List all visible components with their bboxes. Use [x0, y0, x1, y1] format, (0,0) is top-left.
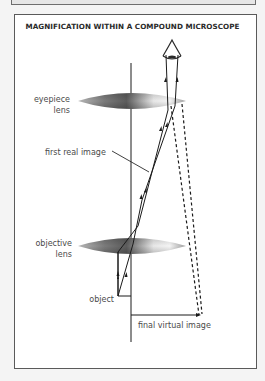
label-final-virtual-image: final virtual image	[138, 321, 211, 330]
label-objective-lens: lens	[56, 250, 72, 259]
microscope-diagram: eyepiece lens first real image objective…	[0, 0, 265, 381]
final-virtual-image-marker	[131, 313, 201, 317]
virtual-rays	[171, 104, 202, 315]
eyepiece-lens	[78, 93, 186, 109]
label-eyepiece-lens: lens	[54, 106, 70, 115]
label-object: object	[89, 295, 114, 304]
label-objective: objective	[35, 239, 72, 248]
label-eyepiece: eyepiece	[34, 95, 70, 104]
label-first-real-image: first real image	[45, 148, 106, 157]
light-rays	[118, 55, 178, 296]
